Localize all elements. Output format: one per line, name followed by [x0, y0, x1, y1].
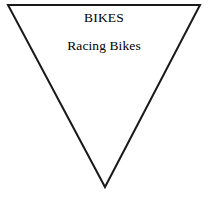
diagram-canvas: BIKES Racing Bikes [0, 0, 208, 200]
triangle-subtitle-label: Racing Bikes [0, 39, 208, 53]
triangle-title-label: BIKES [0, 11, 208, 25]
label-layer: BIKES Racing Bikes [0, 0, 208, 200]
